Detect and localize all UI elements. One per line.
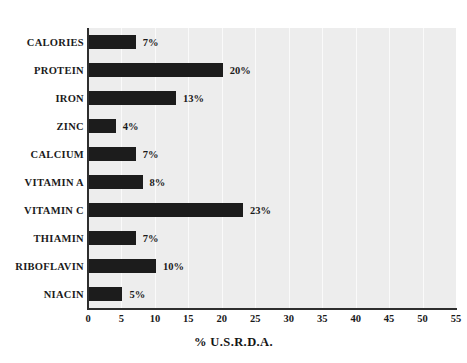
category-label: THIAMIN xyxy=(33,233,84,244)
bar xyxy=(89,175,143,189)
bar-row: IRON13% xyxy=(0,84,467,112)
x-tick-label: 40 xyxy=(350,313,361,324)
bar xyxy=(89,231,136,245)
bar xyxy=(89,35,136,49)
bar-chart: CALORIES7%PROTEIN20%IRON13%ZINC4%CALCIUM… xyxy=(0,0,467,363)
category-label: NIACIN xyxy=(44,289,84,300)
bar-value-label: 7% xyxy=(143,37,159,48)
category-label: IRON xyxy=(55,93,84,104)
bar-value-label: 5% xyxy=(129,289,145,300)
category-label: PROTEIN xyxy=(34,65,84,76)
bar-value-label: 10% xyxy=(163,261,184,272)
bar-row: CALCIUM7% xyxy=(0,140,467,168)
x-tick-label: 45 xyxy=(384,313,395,324)
bar xyxy=(89,91,176,105)
bar xyxy=(89,203,243,217)
x-tick-label: 20 xyxy=(217,313,228,324)
bar-row: PROTEIN20% xyxy=(0,56,467,84)
bar-row: RIBOFLAVIN10% xyxy=(0,252,467,280)
bar-row: THIAMIN7% xyxy=(0,224,467,252)
bar-row: ZINC4% xyxy=(0,112,467,140)
x-tick-label: 25 xyxy=(250,313,261,324)
x-tick-label: 10 xyxy=(150,313,161,324)
bar-row: VITAMIN C23% xyxy=(0,196,467,224)
category-label: VITAMIN A xyxy=(25,177,84,188)
bar-value-label: 8% xyxy=(150,177,166,188)
bar-value-label: 7% xyxy=(143,233,159,244)
bar-row: NIACIN5% xyxy=(0,280,467,308)
bar-row: CALORIES7% xyxy=(0,28,467,56)
bar-row: VITAMIN A8% xyxy=(0,168,467,196)
x-axis-line xyxy=(87,308,457,310)
x-tick-label: 55 xyxy=(451,313,462,324)
bar-value-label: 20% xyxy=(230,65,251,76)
x-axis-title: % U.S.R.D.A. xyxy=(0,335,467,350)
category-label: CALCIUM xyxy=(31,149,84,160)
bar xyxy=(89,147,136,161)
x-tick-label: 30 xyxy=(283,313,294,324)
x-tick-label: 0 xyxy=(85,313,90,324)
x-tick-label: 5 xyxy=(119,313,124,324)
category-label: ZINC xyxy=(57,121,84,132)
x-tick-label: 15 xyxy=(183,313,194,324)
category-label: CALORIES xyxy=(27,37,84,48)
bar xyxy=(89,259,156,273)
bar xyxy=(89,119,116,133)
bar-value-label: 13% xyxy=(183,93,204,104)
x-tick-label: 35 xyxy=(317,313,328,324)
bar xyxy=(89,287,122,301)
category-label: VITAMIN C xyxy=(24,205,84,216)
bar-value-label: 23% xyxy=(250,205,271,216)
category-label: RIBOFLAVIN xyxy=(15,261,84,272)
bar-value-label: 4% xyxy=(123,121,139,132)
bar xyxy=(89,63,223,77)
bar-value-label: 7% xyxy=(143,149,159,160)
x-tick-label: 50 xyxy=(417,313,428,324)
